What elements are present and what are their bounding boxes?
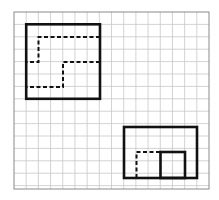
grid-diagram [0,0,219,200]
grid-paper [14,12,209,189]
figure-2-dashed-path [137,152,161,178]
